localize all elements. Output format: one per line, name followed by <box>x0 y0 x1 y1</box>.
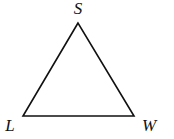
vertex-label-l: L <box>4 116 14 135</box>
triangle-diagram: S L W <box>0 0 174 139</box>
vertex-label-w: W <box>142 116 158 135</box>
vertex-label-s: S <box>74 0 83 18</box>
triangle-slw <box>23 23 134 116</box>
